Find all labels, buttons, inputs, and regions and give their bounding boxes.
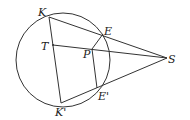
label-K-prime: K' [54,106,66,119]
label-K: K [37,6,47,19]
label-T: T [41,40,50,53]
segment-P-Eprime [92,49,97,88]
segment-Kprime-S [61,58,167,103]
label-E-prime: E' [97,90,109,103]
point-T-dot [52,44,54,46]
segment-K-Kprime [49,17,61,103]
label-E: E [103,25,112,38]
circle [16,13,110,107]
geometry-diagram: K E T P S K' E' [0,0,190,120]
segment-E-P [92,34,103,49]
label-S: S [168,53,176,66]
label-P: P [82,48,91,61]
